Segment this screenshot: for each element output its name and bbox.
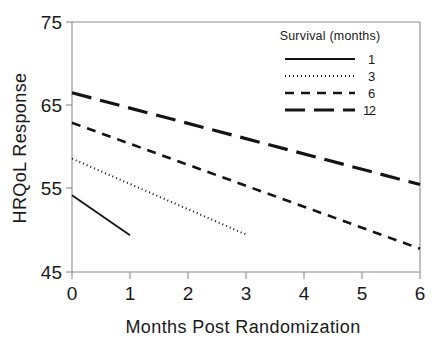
y-axis-tick-labels: 75 65 55 45 <box>41 12 62 283</box>
x-tick-label-1: 1 <box>125 283 136 304</box>
y-tick-label-55: 55 <box>41 178 62 199</box>
line-chart-svg: 75 65 55 45 0 1 2 3 4 5 6 Months Post Ra… <box>0 0 445 357</box>
series-line-1-month <box>72 195 130 235</box>
x-axis-title: Months Post Randomization <box>125 317 360 337</box>
legend-item-12[interactable]: 12 <box>285 103 376 118</box>
x-tick-label-5: 5 <box>357 283 368 304</box>
legend-label-6-months: 6 <box>368 86 375 101</box>
series-line-3-months <box>72 159 246 235</box>
x-axis-ticks <box>72 272 420 279</box>
y-axis-ticks <box>66 22 72 272</box>
legend-label-3-months: 3 <box>368 69 375 84</box>
chart-legend: Survival (months) 1 3 6 12 <box>280 29 381 118</box>
x-tick-label-2: 2 <box>183 283 194 304</box>
x-axis-tick-labels: 0 1 2 3 4 5 6 <box>67 283 426 304</box>
x-tick-label-3: 3 <box>241 283 252 304</box>
legend-title: Survival (months) <box>280 29 381 43</box>
y-tick-label-45: 45 <box>41 262 62 283</box>
y-tick-label-65: 65 <box>41 95 62 116</box>
legend-item-3[interactable]: 3 <box>285 69 375 84</box>
x-tick-label-6: 6 <box>415 283 426 304</box>
y-tick-label-75: 75 <box>41 12 62 33</box>
legend-item-1[interactable]: 1 <box>285 52 375 67</box>
x-tick-label-0: 0 <box>67 283 78 304</box>
legend-label-12-months: 12 <box>363 103 376 118</box>
x-tick-label-4: 4 <box>299 283 310 304</box>
legend-item-6[interactable]: 6 <box>285 86 375 101</box>
legend-label-1-month: 1 <box>368 52 375 67</box>
series-line-6-months <box>72 123 420 249</box>
chart-figure: 75 65 55 45 0 1 2 3 4 5 6 Months Post Ra… <box>0 0 445 357</box>
y-axis-title: HRQoL Response <box>10 72 30 223</box>
